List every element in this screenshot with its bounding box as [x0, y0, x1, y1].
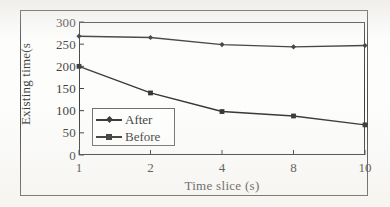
- x-axis-tick-marks: [79, 150, 365, 155]
- y-axis-tick-marks: [79, 22, 84, 155]
- x-tick-label: 2: [137, 161, 165, 175]
- legend-label-before: Before: [125, 130, 160, 143]
- x-tick-label: 1: [65, 161, 93, 175]
- y-tick-label: 0: [42, 149, 76, 162]
- x-tick-label: 10: [351, 161, 379, 175]
- x-tick-label: 8: [280, 161, 308, 175]
- y-axis-title: Existing time(s: [18, 28, 34, 140]
- y-axis-title-wrap: Existing time(s: [14, 22, 36, 155]
- legend-marker-diamond-icon: [96, 114, 122, 126]
- legend-marker-square-icon: [96, 131, 122, 143]
- y-tick-label: 100: [42, 104, 76, 117]
- y-tick-label: 50: [42, 126, 76, 139]
- y-tick-label: 250: [42, 38, 76, 51]
- y-tick-label: 200: [42, 60, 76, 73]
- x-axis-tick-labels: 124810: [0, 161, 390, 179]
- figure-root: 050100150200250300 124810 Time slice (s)…: [0, 0, 390, 207]
- x-tick-label: 4: [208, 161, 236, 175]
- y-tick-label: 150: [42, 82, 76, 95]
- chart-legend: After Before: [92, 108, 175, 146]
- legend-entry-after: After: [96, 111, 152, 128]
- legend-entry-before: Before: [96, 128, 160, 145]
- y-tick-label: 300: [42, 16, 76, 29]
- x-axis-title: Time slice (s): [79, 178, 365, 194]
- legend-label-after: After: [125, 113, 152, 126]
